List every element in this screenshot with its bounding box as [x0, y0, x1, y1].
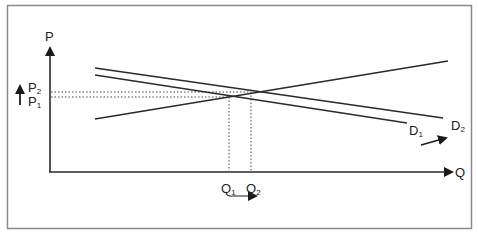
- diagram-frame: [8, 6, 472, 229]
- d1-label: D1: [409, 124, 423, 139]
- d2-label: D2: [451, 119, 465, 134]
- q1-label: Q1: [221, 182, 236, 197]
- supply-demand-diagram: [0, 0, 478, 235]
- p-axis-label: P: [45, 30, 54, 43]
- q2-label: Q2: [246, 182, 261, 197]
- p1-label: P1: [28, 95, 41, 110]
- q-axis-label: Q: [455, 166, 465, 179]
